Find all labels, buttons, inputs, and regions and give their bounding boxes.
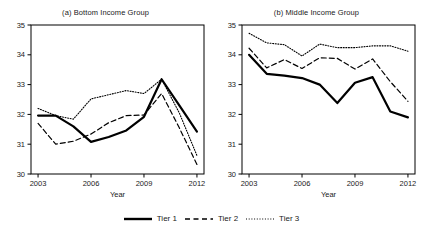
series-line-tier-1 — [38, 79, 197, 142]
y-tick-label: 35 — [228, 21, 236, 30]
x-axis-label: Year — [321, 190, 337, 199]
panel-bottom-income-group: (a) Bottom Income Group 3031323334352003… — [0, 0, 211, 200]
y-tick-label: 32 — [17, 110, 25, 119]
y-tick-label: 30 — [17, 170, 25, 179]
x-tick-label: 2012 — [400, 179, 417, 188]
x-tick-label: 2006 — [83, 179, 100, 188]
legend-item-tier-2: Tier 2 — [184, 214, 238, 224]
plot-area-middle-income: 3031323334352003200620092012Year — [211, 0, 422, 200]
plot-area-bottom-income: 3031323334352003200620092012Year — [0, 0, 211, 200]
y-tick-label: 32 — [228, 110, 236, 119]
x-tick-label: 2009 — [136, 179, 153, 188]
y-tick-label: 30 — [228, 170, 236, 179]
y-tick-label: 31 — [228, 140, 236, 149]
legend-label: Tier 3 — [279, 215, 299, 223]
x-tick-label: 2003 — [30, 179, 47, 188]
x-tick-label: 2006 — [294, 179, 311, 188]
y-tick-label: 34 — [17, 50, 25, 59]
x-tick-label: 2009 — [347, 179, 364, 188]
series-line-tier-2 — [38, 94, 197, 165]
series-line-tier-3 — [249, 33, 408, 56]
figure-two-panel-line-charts: (a) Bottom Income Group 3031323334352003… — [0, 0, 422, 234]
y-tick-label: 35 — [17, 21, 25, 30]
x-axis-label: Year — [110, 190, 126, 199]
y-tick-label: 33 — [228, 80, 236, 89]
series-line-tier-3 — [38, 79, 197, 155]
panel-middle-income-group: (b) Middle Income Group 3031323334352003… — [211, 0, 422, 200]
legend-label: Tier 2 — [218, 215, 238, 223]
x-tick-label: 2003 — [241, 179, 258, 188]
y-tick-label: 33 — [17, 80, 25, 89]
series-line-tier-1 — [249, 55, 408, 118]
y-tick-label: 31 — [17, 140, 25, 149]
chart-legend: Tier 1 Tier 2 Tier 3 — [0, 203, 422, 234]
legend-item-tier-1: Tier 1 — [123, 214, 177, 224]
x-tick-label: 2012 — [189, 179, 206, 188]
legend-item-tier-3: Tier 3 — [245, 214, 299, 224]
legend-swatch-dashed-icon — [184, 214, 214, 224]
legend-swatch-dotted-icon — [245, 214, 275, 224]
legend-label: Tier 1 — [157, 215, 177, 223]
y-tick-label: 34 — [228, 50, 236, 59]
legend-swatch-solid-icon — [123, 214, 153, 224]
